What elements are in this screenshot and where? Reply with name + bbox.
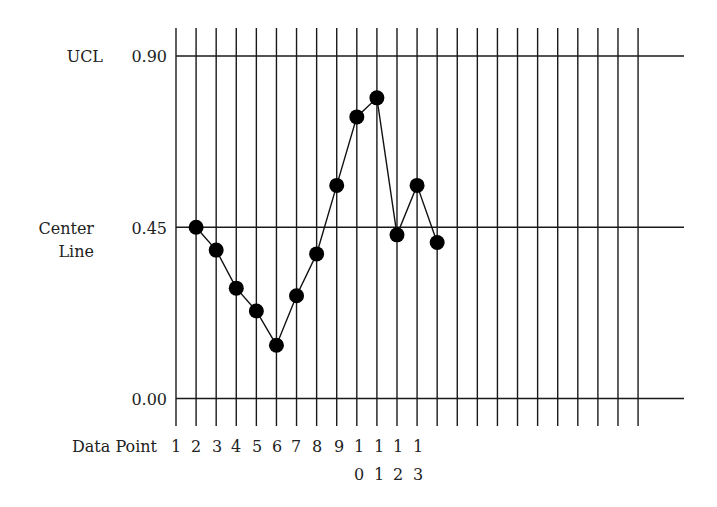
data-point-marker xyxy=(389,227,404,242)
data-point-marker xyxy=(329,178,344,193)
data-point-marker xyxy=(430,235,445,250)
x-tick-label: 1 xyxy=(374,437,384,456)
x-tick-label: 2 xyxy=(393,465,403,484)
x-tick-label: 4 xyxy=(231,437,241,456)
control-chart: UCL 0.90 Center Line 0.45 0.00 Data Poin… xyxy=(0,0,717,507)
y-tick-0-90: 0.90 xyxy=(131,47,167,66)
data-point-marker xyxy=(289,288,304,303)
x-tick-labels: 12345678910111213 xyxy=(171,437,423,484)
x-tick-label: 3 xyxy=(212,437,222,456)
data-point-marker xyxy=(349,109,364,124)
center-line-label-line2: Line xyxy=(58,242,94,261)
x-tick-label: 1 xyxy=(354,437,364,456)
x-tick-label: 1 xyxy=(374,465,384,484)
data-point-marker xyxy=(249,303,264,318)
y-tick-0-00: 0.00 xyxy=(131,390,167,409)
x-tick-label: 2 xyxy=(191,437,201,456)
data-point-marker xyxy=(369,90,384,105)
center-line-label-line1: Center xyxy=(38,219,94,238)
x-tick-label: 5 xyxy=(252,437,262,456)
y-tick-0-45: 0.45 xyxy=(131,219,167,238)
x-tick-label: 1 xyxy=(413,437,423,456)
data-point-marker xyxy=(229,281,244,296)
x-tick-label: 0 xyxy=(354,465,364,484)
data-point-marker xyxy=(209,243,224,258)
data-point-marker xyxy=(410,178,425,193)
data-point-marker xyxy=(269,338,284,353)
x-tick-label: 1 xyxy=(171,437,181,456)
data-point-marker xyxy=(189,220,204,235)
x-tick-label: 9 xyxy=(334,437,344,456)
horizontal-reference-lines xyxy=(176,56,684,399)
x-axis-label: Data Point xyxy=(72,437,158,456)
x-tick-label: 1 xyxy=(393,437,403,456)
ucl-label: UCL xyxy=(67,47,104,66)
x-tick-label: 7 xyxy=(291,437,301,456)
x-tick-label: 6 xyxy=(272,437,282,456)
x-tick-label: 3 xyxy=(413,465,423,484)
data-point-marker xyxy=(309,246,324,261)
x-tick-label: 8 xyxy=(312,437,322,456)
